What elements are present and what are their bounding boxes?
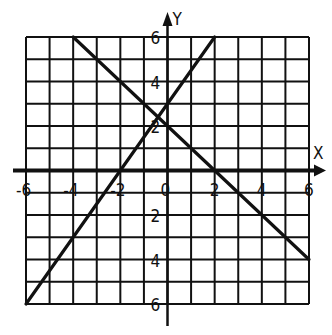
axes: XY: [13, 9, 326, 326]
x-tick-label: 4: [257, 180, 267, 200]
x-tick-label: -2: [110, 180, 125, 200]
x-tick-label: 2: [210, 180, 220, 200]
y-tick-label: 6: [151, 295, 161, 315]
y-tick-label: 4: [151, 251, 161, 271]
y-tick-label: 2: [151, 206, 161, 226]
x-axis-arrow-icon: [314, 165, 326, 177]
y-tick-label: 6: [151, 28, 161, 48]
y-tick-label: 2: [151, 117, 161, 137]
y-tick-label: 4: [151, 73, 161, 93]
x-tick-label: 6: [304, 180, 314, 200]
x-tick-label: -6: [16, 180, 31, 200]
x-tick-label: -4: [63, 180, 78, 200]
y-axis-label: Y: [172, 9, 183, 29]
coordinate-plane: XY -6-4-20246642246: [0, 0, 332, 335]
x-axis-label: X: [313, 143, 323, 163]
y-axis-arrow-icon: [163, 12, 173, 26]
x-tick-label: 0: [161, 180, 171, 200]
